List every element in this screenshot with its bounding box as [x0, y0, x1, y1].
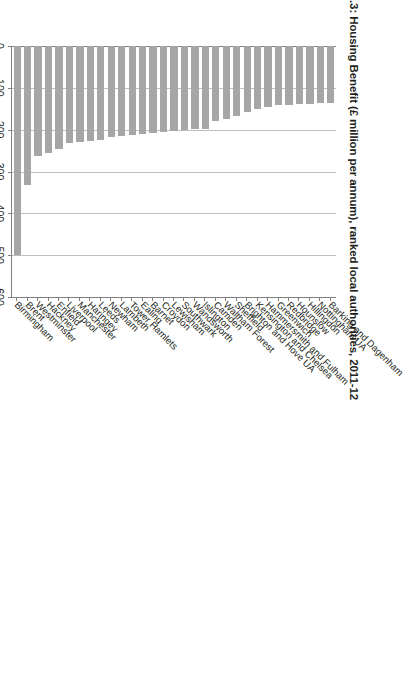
bar-fill — [108, 46, 115, 137]
bar-barnet — [149, 46, 156, 133]
category-tick — [131, 297, 132, 301]
category-tick — [37, 297, 38, 301]
bar-fill — [296, 46, 303, 104]
category-tick — [100, 297, 101, 301]
bar-fill — [129, 46, 136, 135]
category-tick — [278, 297, 279, 301]
bar-leeds — [97, 46, 104, 140]
bar-fill — [87, 46, 94, 141]
category-tick — [152, 297, 153, 301]
bar-lambeth — [118, 46, 125, 136]
category-tick — [288, 297, 289, 301]
bar-fill — [202, 46, 209, 129]
category-tick — [267, 297, 268, 301]
category-tick — [142, 297, 143, 301]
value-tick-label: 0 — [0, 43, 6, 49]
value-tick-400 — [8, 213, 12, 214]
bar-waltham-forest — [223, 46, 230, 119]
bar-fill — [14, 46, 21, 255]
bar-fill — [76, 46, 83, 142]
bar-fill — [285, 46, 292, 105]
bar-fill — [24, 46, 31, 185]
category-tick — [16, 297, 17, 301]
category-tick — [246, 297, 247, 301]
bar-brighton-and-hove-ua — [244, 46, 251, 112]
plot-area — [12, 46, 336, 297]
bar-fill — [327, 46, 334, 103]
category-tick — [173, 297, 174, 301]
bar-fill — [97, 46, 104, 140]
bar-hammersmith-and-fulham — [264, 46, 271, 107]
value-tick-label: 400 — [0, 205, 6, 223]
value-tick-label: 100 — [0, 79, 6, 97]
category-tick — [309, 297, 310, 301]
bar-lewisham — [170, 46, 177, 131]
bar-fill — [275, 46, 282, 105]
bar-fill — [306, 46, 313, 104]
bar-croydon — [160, 46, 167, 132]
value-tick-label: 600 — [0, 288, 6, 306]
bar-kensington-and-chelsea — [254, 46, 261, 109]
category-tick — [194, 297, 195, 301]
category-tick — [163, 297, 164, 301]
category-tick — [225, 297, 226, 301]
category-tick — [48, 297, 49, 301]
bar-barking-and-dagenham — [327, 46, 334, 103]
bar-greenwich — [275, 46, 282, 105]
bar-liverpool — [66, 46, 73, 143]
bar-fill — [149, 46, 156, 133]
bar-fill — [254, 46, 261, 109]
bar-newham — [108, 46, 115, 137]
bar-birmingham — [14, 46, 21, 255]
bar-wandsworth — [191, 46, 198, 129]
bar-hounslow — [296, 46, 303, 104]
value-tick-label: 300 — [0, 163, 6, 181]
bar-fill — [55, 46, 62, 149]
bar-camden — [212, 46, 219, 121]
bar-haringey — [87, 46, 94, 141]
bar-brent — [24, 46, 31, 185]
bar-series — [12, 46, 336, 297]
value-tick-500 — [8, 255, 12, 256]
value-tick-0 — [8, 46, 12, 47]
bar-fill — [170, 46, 177, 131]
bar-fill — [181, 46, 188, 130]
bar-sheffield — [233, 46, 240, 116]
bar-southwark — [181, 46, 188, 130]
bar-hackney — [45, 46, 52, 153]
value-tick-label: 200 — [0, 121, 6, 139]
category-tick — [121, 297, 122, 301]
bar-fill — [191, 46, 198, 129]
bar-hillingdon — [306, 46, 313, 104]
value-tick-600 — [8, 297, 12, 298]
bar-fill — [317, 46, 324, 103]
bar-westminster — [34, 46, 41, 156]
bar-nottingham-ua — [317, 46, 324, 103]
value-tick-300 — [8, 172, 12, 173]
bar-fill — [223, 46, 230, 119]
value-tick-100 — [8, 88, 12, 89]
category-tick — [257, 297, 258, 301]
bar-islington — [202, 46, 209, 129]
bar-fill — [160, 46, 167, 132]
value-tick-label: 500 — [0, 246, 6, 264]
category-tick — [330, 297, 331, 301]
bar-fill — [34, 46, 41, 156]
category-tick — [27, 297, 28, 301]
value-tick-200 — [8, 130, 12, 131]
category-tick — [236, 297, 237, 301]
bar-fill — [233, 46, 240, 116]
bar-fill — [212, 46, 219, 121]
bar-redbridge — [285, 46, 292, 105]
bar-manchester — [76, 46, 83, 142]
bar-fill — [139, 46, 146, 134]
bar-enfield — [55, 46, 62, 149]
category-tick — [215, 297, 216, 301]
category-tick — [58, 297, 59, 301]
bar-tower-hamlets — [129, 46, 136, 135]
bar-fill — [244, 46, 251, 112]
bar-fill — [66, 46, 73, 143]
bar-fill — [45, 46, 52, 153]
bar-ealing — [139, 46, 146, 134]
